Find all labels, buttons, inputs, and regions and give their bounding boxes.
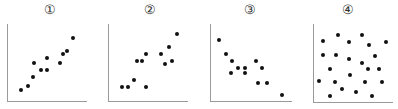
data-point	[65, 49, 69, 53]
data-point	[367, 43, 371, 47]
plot-area	[108, 24, 188, 102]
data-point	[144, 52, 148, 56]
scatter-plot-4: ④	[298, 0, 398, 109]
data-point	[163, 62, 167, 66]
data-point	[254, 59, 258, 63]
plot-number-label: ④	[298, 2, 398, 18]
data-point	[26, 84, 30, 88]
data-point	[45, 56, 49, 60]
scatter-plot-1: ①	[0, 0, 100, 109]
data-point	[336, 33, 340, 37]
data-point	[256, 81, 260, 85]
x-axis	[313, 102, 393, 103]
data-point	[333, 80, 337, 84]
data-point	[230, 59, 234, 63]
data-point	[236, 66, 240, 70]
scatter-plot-3: ③	[200, 0, 300, 109]
y-axis	[313, 24, 314, 103]
data-point	[321, 53, 325, 57]
x-axis	[108, 101, 188, 102]
y-axis	[108, 24, 109, 102]
x-axis	[7, 101, 87, 102]
data-point	[32, 61, 36, 65]
data-point	[360, 33, 364, 37]
data-point	[340, 87, 344, 91]
data-point	[384, 40, 388, 44]
x-axis	[210, 101, 292, 102]
data-point	[328, 67, 332, 71]
data-point	[348, 73, 352, 77]
plot-area	[313, 24, 393, 103]
data-point	[39, 68, 43, 72]
data-point	[370, 94, 374, 98]
data-point	[175, 32, 179, 36]
plot-area	[210, 24, 292, 102]
data-point	[334, 53, 338, 57]
plot-number-label: ①	[0, 2, 100, 18]
data-point	[170, 59, 174, 63]
data-point	[260, 66, 264, 70]
data-point	[363, 80, 367, 84]
data-point	[167, 45, 171, 49]
data-point	[373, 54, 377, 58]
data-point	[159, 52, 163, 56]
plot-number-label: ③	[200, 2, 300, 18]
data-point	[61, 52, 65, 56]
data-point	[347, 40, 351, 44]
data-point	[366, 67, 370, 71]
data-point	[347, 57, 351, 61]
data-point	[280, 93, 284, 97]
data-point	[120, 85, 124, 89]
data-point	[360, 61, 364, 65]
data-point	[45, 68, 49, 72]
scatter-plot-2: ②	[100, 0, 200, 109]
data-point	[354, 90, 358, 94]
data-point	[224, 52, 228, 56]
y-axis	[210, 24, 211, 102]
data-point	[217, 38, 221, 42]
data-point	[243, 66, 247, 70]
data-point	[132, 78, 136, 82]
data-point	[126, 85, 130, 89]
data-point	[265, 81, 269, 85]
data-point	[58, 61, 62, 65]
y-axis	[7, 24, 8, 102]
plot-area	[7, 24, 87, 102]
data-point	[31, 75, 35, 79]
data-point	[135, 59, 139, 63]
data-point	[328, 94, 332, 98]
data-point	[140, 59, 144, 63]
data-point	[317, 79, 321, 83]
data-point	[19, 88, 23, 92]
data-point	[243, 71, 247, 75]
plot-number-label: ②	[100, 2, 200, 18]
data-point	[144, 85, 148, 89]
data-point	[321, 39, 325, 43]
data-point	[229, 71, 233, 75]
data-point	[380, 80, 384, 84]
data-point	[377, 67, 381, 71]
data-point	[71, 36, 75, 40]
